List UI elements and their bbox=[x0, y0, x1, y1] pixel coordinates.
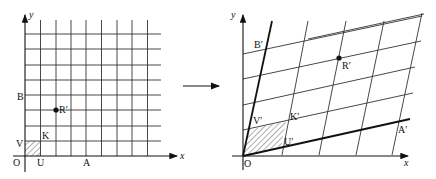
y-axis-label: y bbox=[230, 9, 236, 20]
label-v-prime: V′ bbox=[253, 115, 262, 126]
original-grid-plot: x y O U A V K B R′ bbox=[13, 9, 185, 172]
horizontal-grid-lines bbox=[25, 34, 161, 141]
label-a: A bbox=[83, 157, 91, 168]
label-b-prime: B′ bbox=[254, 39, 263, 50]
unit-square bbox=[25, 141, 40, 156]
label-a-prime: A′ bbox=[398, 124, 407, 135]
label-b: B bbox=[17, 91, 24, 102]
label-u: U bbox=[37, 157, 45, 168]
label-u-prime: U′ bbox=[284, 136, 293, 147]
y-axis-label: y bbox=[28, 9, 34, 20]
label-o: O bbox=[13, 157, 20, 168]
x-axis-label: x bbox=[403, 157, 409, 168]
x-axis-label: x bbox=[179, 150, 185, 161]
label-k-prime: K′ bbox=[290, 111, 299, 122]
vertical-grid-lines bbox=[41, 20, 148, 156]
label-k: K bbox=[42, 130, 50, 141]
label-o: O bbox=[244, 158, 251, 169]
point-r-prime bbox=[336, 55, 341, 60]
linear-transformation-diagram: x y O U A V K B R′ bbox=[0, 0, 436, 179]
label-r: R′ bbox=[59, 104, 68, 115]
point-r bbox=[53, 107, 58, 112]
label-r-prime: R′ bbox=[342, 60, 351, 71]
transformed-grid-plot: x y O U′ A′ V′ K′ B′ R′ bbox=[230, 9, 424, 170]
label-v: V bbox=[16, 138, 24, 149]
